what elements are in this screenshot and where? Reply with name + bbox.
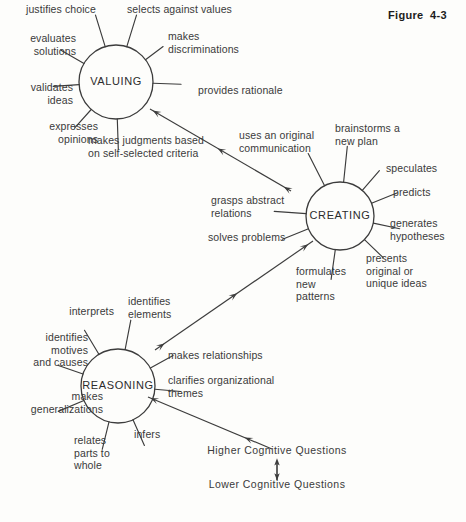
spoke-label-reasoning-7: interprets bbox=[48, 305, 114, 318]
spoke-label-valuing-5: expresses opinions bbox=[28, 120, 98, 145]
spoke-label-reasoning-2: clarifies organizational themes bbox=[168, 374, 298, 399]
spoke-line-valuing-1 bbox=[127, 15, 137, 46]
spoke-label-reasoning-3: infers bbox=[134, 428, 176, 441]
spoke-label-creating-5: formulates new patterns bbox=[296, 265, 360, 303]
spoke-label-creating-7: grasps abstract relations bbox=[211, 194, 303, 219]
spoke-label-creating-2: predicts bbox=[393, 186, 453, 199]
spoke-label-reasoning-5: makes generalizations bbox=[11, 390, 103, 415]
spoke-line-reasoning-0 bbox=[125, 320, 131, 350]
spoke-line-creating-8 bbox=[308, 154, 324, 186]
spoke-label-creating-4: presents original or unique ideas bbox=[366, 252, 456, 290]
node-label-valuing: VALUING bbox=[56, 75, 176, 87]
spoke-line-valuing-2 bbox=[146, 47, 164, 60]
spoke-label-valuing-7: evaluates solutions bbox=[13, 32, 76, 57]
figure-caption: Figure 4-3 bbox=[388, 9, 447, 21]
connection-line-questions-to-reasoning bbox=[148, 397, 272, 449]
spoke-label-reasoning-6: identifies motives and causes bbox=[14, 331, 88, 369]
spoke-label-valuing-1: selects against values bbox=[127, 3, 257, 16]
spoke-label-creating-3: generates hypotheses bbox=[390, 217, 466, 242]
spoke-label-creating-1: speculates bbox=[386, 162, 456, 175]
figure-canvas: Figure 4-3 VALUINGCREATINGREASONING just… bbox=[0, 0, 466, 522]
spoke-label-creating-8: uses an original communication bbox=[239, 129, 339, 154]
connection-arrowhead-reasoning-to-creating-0 bbox=[156, 344, 165, 351]
spoke-line-valuing-0 bbox=[96, 15, 106, 46]
spoke-label-reasoning-1: makes relationships bbox=[168, 349, 286, 362]
spoke-label-creating-0: brainstorms a new plan bbox=[335, 122, 421, 147]
higher-cognitive-questions-label: Higher Cognitive Questions bbox=[167, 444, 387, 456]
spoke-label-valuing-2: makes discriminations bbox=[168, 30, 273, 55]
spoke-label-reasoning-4: relates parts to whole bbox=[74, 434, 126, 472]
connection-arrowhead-creating-to-valuing-0 bbox=[284, 187, 293, 194]
lower-cognitive-questions-label: Lower Cognitive Questions bbox=[167, 478, 387, 490]
spoke-label-valuing-4: makes judgments based on self-selected c… bbox=[88, 134, 238, 159]
spoke-label-creating-6: solves problems bbox=[208, 231, 303, 244]
spoke-label-reasoning-0: identifies elements bbox=[128, 295, 194, 320]
spoke-line-creating-1 bbox=[362, 171, 379, 191]
spoke-label-valuing-0: justifies choice bbox=[26, 3, 126, 16]
spoke-label-valuing-3: provides rationale bbox=[198, 84, 308, 97]
spoke-line-creating-0 bbox=[344, 146, 348, 182]
spoke-label-valuing-6: validates ideas bbox=[13, 81, 73, 106]
connection-arrowhead-creating-to-valuing-2 bbox=[153, 111, 162, 118]
